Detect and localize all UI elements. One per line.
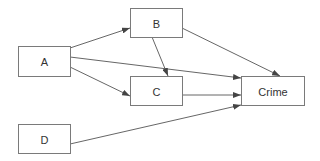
edge-b-to-c [152,37,168,76]
edge-a-to-b [70,28,130,48]
nodes-layer: ABCCrimeD [19,9,305,154]
node-b: B [131,9,183,38]
node-label: Crime [258,86,287,98]
node-crime: Crime [242,77,305,106]
causal-diagram: ABCCrimeD [0,0,320,161]
node-c: C [131,77,183,106]
node-a: A [19,47,71,77]
node-d: D [19,125,71,154]
node-label: D [41,134,49,146]
edge-a-to-c [70,67,130,96]
edge-b-to-crime [182,28,280,76]
node-label: B [153,18,160,30]
edge-d-to-crime [70,105,241,144]
node-label: C [153,86,161,98]
node-label: A [41,56,49,68]
edge-a-to-crime [70,57,241,78]
